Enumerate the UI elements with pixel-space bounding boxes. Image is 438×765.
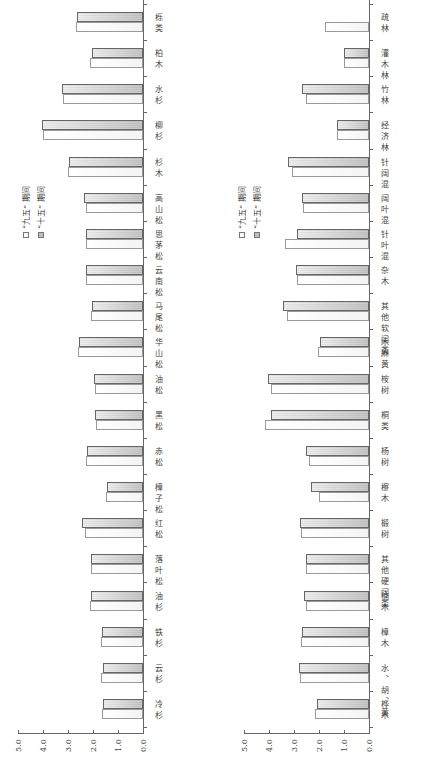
value-axis-tick — [294, 730, 295, 734]
category-label: 针叶混 — [379, 230, 388, 263]
category-axis-tick — [369, 293, 373, 294]
bar-shiwu-7 — [306, 446, 369, 456]
bar-jiuwu-19 — [325, 22, 369, 32]
category-label: 椴树 — [379, 519, 388, 541]
value-tick-label: 1.0 — [340, 737, 349, 755]
category-label: 阔叶混 — [379, 194, 388, 227]
category-axis-tick — [369, 546, 373, 547]
category-label: 杨树 — [379, 447, 388, 469]
bar-shiwu-16 — [337, 120, 369, 130]
category-axis-tick — [369, 582, 373, 583]
category-label: 针阔混 — [379, 158, 388, 191]
category-label: 樟木 — [379, 628, 388, 650]
bar-shiwu-13 — [297, 229, 369, 239]
category-axis-tick — [369, 40, 373, 41]
bar-jiuwu-0 — [315, 709, 369, 719]
bar-shiwu-18 — [344, 48, 369, 58]
bar-shiwu-5 — [300, 518, 369, 528]
bar-shiwu-0 — [317, 699, 369, 709]
bar-jiuwu-13 — [285, 239, 369, 249]
bar-jiuwu-16 — [337, 130, 369, 140]
legend-swatch-icon — [239, 232, 245, 238]
bar-jiuwu-5 — [301, 528, 369, 538]
category-label: 疏林 — [379, 13, 388, 35]
bar-jiuwu-9 — [271, 384, 369, 394]
category-axis-tick — [369, 185, 373, 186]
category-axis-tick — [369, 655, 373, 656]
bar-jiuwu-7 — [309, 456, 369, 466]
value-axis-tick — [369, 730, 370, 734]
bar-jiuwu-4 — [306, 564, 369, 574]
category-label: 竹林 — [379, 85, 388, 107]
bar-shiwu-17 — [302, 84, 369, 94]
category-label: 水、胡、黄 — [379, 664, 388, 719]
value-tick-label: 0.0 — [365, 737, 374, 755]
bar-jiuwu-18 — [344, 58, 369, 68]
bar-jiuwu-14 — [303, 203, 369, 213]
bar-shiwu-10 — [320, 337, 369, 347]
category-axis-tick — [369, 727, 373, 728]
bar-jiuwu-1 — [300, 673, 369, 683]
category-axis-tick — [369, 149, 373, 150]
category-axis-tick — [369, 112, 373, 113]
legend-label: “九五” 期间 — [236, 186, 247, 229]
chart-broadleaf-forest-types: 0.01.02.03.04.05.0固碳量/(t · hm⁻² · a⁻¹)桦木… — [0, 0, 438, 765]
category-axis-tick — [369, 221, 373, 222]
legend-label: “十五” 期间 — [251, 186, 262, 229]
category-label: 桉树 — [379, 375, 388, 397]
category-axis-tick — [369, 4, 373, 5]
bar-shiwu-1 — [299, 663, 369, 673]
bar-shiwu-2 — [302, 627, 369, 637]
bar-shiwu-8 — [271, 410, 369, 420]
bar-shiwu-11 — [283, 301, 369, 311]
category-axis-tick — [369, 619, 373, 620]
category-axis-tick — [369, 510, 373, 511]
bar-jiuwu-11 — [287, 311, 369, 321]
bar-jiuwu-8 — [265, 420, 369, 430]
value-tick-label: 3.0 — [290, 737, 299, 755]
category-label: 其他软阔类 — [379, 302, 388, 357]
value-axis-tick — [319, 730, 320, 734]
bar-jiuwu-12 — [297, 275, 369, 285]
category-axis-tick — [369, 329, 373, 330]
bar-shiwu-4 — [306, 554, 369, 564]
category-label: 檫木 — [379, 483, 388, 505]
category-label: 经济林 — [379, 121, 388, 154]
bar-shiwu-15 — [288, 157, 369, 167]
bar-jiuwu-10 — [318, 347, 369, 357]
value-tick-label: 5.0 — [240, 737, 249, 755]
category-axis-tick — [369, 257, 373, 258]
bar-shiwu-9 — [268, 374, 369, 384]
bar-shiwu-14 — [302, 193, 369, 203]
bar-jiuwu-15 — [292, 167, 369, 177]
legend-item-item_10: “十五” 期间 — [251, 186, 262, 238]
category-axis-tick — [369, 402, 373, 403]
legend-item-item_95: “九五” 期间 — [236, 186, 247, 238]
value-axis-tick — [244, 730, 245, 734]
legend-swatch-icon — [254, 232, 260, 238]
category-axis-tick — [369, 76, 373, 77]
bar-jiuwu-2 — [301, 637, 369, 647]
category-label: 桐类 — [379, 411, 388, 433]
category-axis-tick — [369, 474, 373, 475]
value-axis-tick — [269, 730, 270, 734]
bar-shiwu-6 — [311, 482, 369, 492]
value-axis-tick — [344, 730, 345, 734]
category-axis-tick — [369, 691, 373, 692]
bar-shiwu-3 — [304, 591, 369, 601]
bar-jiuwu-6 — [319, 492, 369, 502]
value-tick-label: 4.0 — [265, 737, 274, 755]
bar-shiwu-12 — [296, 265, 369, 275]
category-axis-tick — [369, 366, 373, 367]
value-tick-label: 2.0 — [315, 737, 324, 755]
value-axis — [244, 733, 369, 734]
bar-jiuwu-3 — [306, 601, 369, 611]
category-axis-tick — [369, 438, 373, 439]
category-label: 杂木 — [379, 266, 388, 288]
category-label: 灌木林 — [379, 49, 388, 82]
bar-jiuwu-17 — [306, 94, 369, 104]
category-label: 其他硬阔类 — [379, 555, 388, 610]
